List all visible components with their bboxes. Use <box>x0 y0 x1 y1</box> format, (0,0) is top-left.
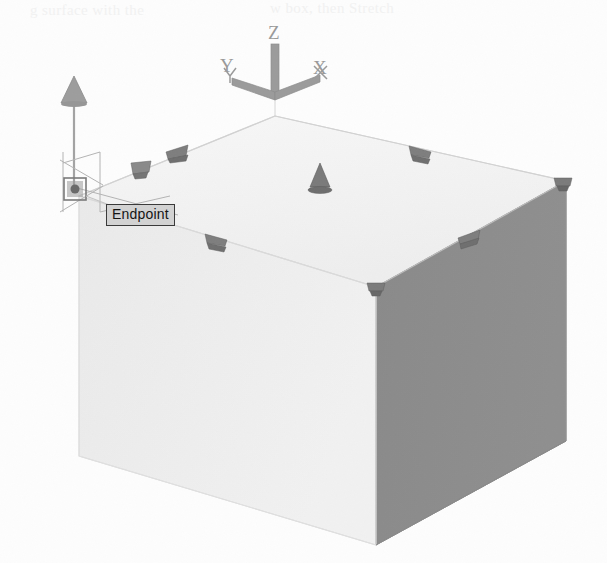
object-snap-tooltip: Endpoint <box>106 204 175 226</box>
ucs-axis-label-y: Y <box>220 56 234 75</box>
ucs-axis-label-x: X <box>313 58 327 77</box>
paper-grain-overlay <box>0 0 607 563</box>
ucs-axis-label-z: Z <box>268 23 280 42</box>
cad-viewport[interactable]: g surface with the w box, then Stretch <box>0 0 607 563</box>
scene-graphics <box>0 0 607 563</box>
